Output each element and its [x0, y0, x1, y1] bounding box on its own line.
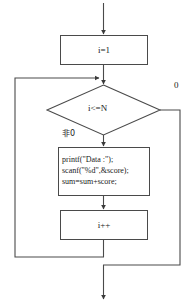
process-node-increment: i++ [60, 210, 148, 240]
process-node-increment-label: i++ [98, 221, 111, 230]
process-node-body-label: printf("Data :"); scanf("%d",&score); su… [62, 155, 129, 187]
flowchart-canvas: i=1 printf("Data :"); scanf("%d",&score)… [0, 0, 195, 307]
process-node-body: printf("Data :"); scanf("%d",&score); su… [58, 147, 150, 196]
edge-condition-false-exit [104, 110, 181, 299]
process-node-init-label: i=1 [98, 46, 110, 55]
decision-diamond-shape [47, 85, 160, 135]
process-node-init: i=1 [60, 35, 148, 65]
